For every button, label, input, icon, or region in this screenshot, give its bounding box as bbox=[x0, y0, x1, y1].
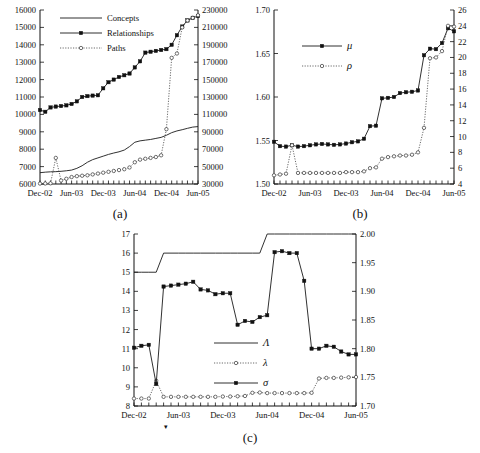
svg-text:1.65: 1.65 bbox=[255, 49, 270, 59]
svg-text:Jun-05: Jun-05 bbox=[186, 188, 209, 198]
svg-text:9: 9 bbox=[126, 382, 130, 392]
svg-text:Jun-03: Jun-03 bbox=[298, 188, 321, 198]
svg-text:130000: 130000 bbox=[202, 92, 228, 102]
svg-text:10000: 10000 bbox=[15, 109, 36, 119]
svg-text:8: 8 bbox=[458, 147, 462, 157]
svg-text:18: 18 bbox=[458, 68, 467, 78]
svg-text:14000: 14000 bbox=[15, 40, 36, 50]
svg-text:Relationships: Relationships bbox=[107, 28, 154, 38]
svg-text:7000: 7000 bbox=[19, 162, 36, 172]
svg-text:170000: 170000 bbox=[202, 57, 228, 67]
svg-text:11000: 11000 bbox=[15, 92, 36, 102]
svg-text:Dec-02: Dec-02 bbox=[261, 188, 286, 198]
svg-text:13: 13 bbox=[121, 305, 130, 315]
svg-text:Jun-04: Jun-04 bbox=[255, 410, 279, 420]
svg-text:16: 16 bbox=[121, 248, 130, 258]
svg-text:Λ: Λ bbox=[262, 337, 270, 348]
svg-text:15000: 15000 bbox=[15, 22, 36, 32]
svg-text:150000: 150000 bbox=[202, 75, 228, 85]
svg-text:22: 22 bbox=[458, 37, 467, 47]
svg-text:26: 26 bbox=[458, 5, 467, 15]
svg-text:Concepts: Concepts bbox=[107, 13, 140, 23]
svg-text:12000: 12000 bbox=[15, 75, 36, 85]
panel-a-plot: 6000700080009000100001100012000130001400… bbox=[0, 0, 240, 210]
svg-text:12: 12 bbox=[458, 116, 467, 126]
svg-text:Dec-03: Dec-03 bbox=[91, 188, 116, 198]
svg-text:1.85: 1.85 bbox=[360, 315, 375, 325]
svg-text:Jun-03: Jun-03 bbox=[167, 410, 190, 420]
figure-three-panel-chart: 6000700080009000100001100012000130001400… bbox=[0, 0, 480, 453]
svg-text:Jun-05: Jun-05 bbox=[344, 410, 367, 420]
svg-text:10: 10 bbox=[121, 363, 130, 373]
svg-text:6: 6 bbox=[458, 163, 462, 173]
svg-text:σ: σ bbox=[263, 377, 269, 388]
svg-text:20: 20 bbox=[458, 52, 467, 62]
svg-text:1.55: 1.55 bbox=[255, 136, 270, 146]
svg-text:Dec-04: Dec-04 bbox=[299, 410, 325, 420]
svg-text:1.95: 1.95 bbox=[360, 258, 375, 268]
panel-b: 1.501.551.601.651.7046810121416182022242… bbox=[240, 0, 480, 228]
panel-b-plot: 1.501.551.601.651.7046810121416182022242… bbox=[240, 0, 480, 210]
panel-c-caption: (c) bbox=[104, 430, 396, 446]
panel-b-caption: (b) bbox=[240, 206, 480, 222]
svg-text:Jun-05: Jun-05 bbox=[442, 188, 465, 198]
svg-text:1.80: 1.80 bbox=[360, 344, 375, 354]
svg-text:17: 17 bbox=[121, 229, 130, 239]
svg-text:μ: μ bbox=[346, 40, 352, 51]
svg-text:Dec-02: Dec-02 bbox=[27, 188, 52, 198]
svg-text:190000: 190000 bbox=[202, 40, 228, 50]
svg-text:24: 24 bbox=[458, 21, 467, 31]
svg-text:Jun-03: Jun-03 bbox=[60, 188, 83, 198]
svg-text:1.60: 1.60 bbox=[255, 92, 270, 102]
svg-text:1.75: 1.75 bbox=[360, 372, 375, 382]
svg-text:Dec-04: Dec-04 bbox=[405, 188, 431, 198]
svg-text:15: 15 bbox=[121, 267, 130, 277]
svg-text:Dec-03: Dec-03 bbox=[333, 188, 358, 198]
svg-text:210000: 210000 bbox=[202, 22, 228, 32]
svg-text:11: 11 bbox=[122, 344, 130, 354]
svg-text:14: 14 bbox=[458, 100, 467, 110]
svg-text:1.90: 1.90 bbox=[360, 286, 375, 296]
svg-text:Jun-04: Jun-04 bbox=[370, 188, 394, 198]
svg-text:16: 16 bbox=[458, 84, 467, 94]
svg-text:Dec-02: Dec-02 bbox=[121, 410, 146, 420]
svg-text:λ: λ bbox=[262, 357, 268, 368]
svg-text:230000: 230000 bbox=[202, 5, 228, 15]
svg-text:Dec-03: Dec-03 bbox=[210, 410, 235, 420]
svg-text:Paths: Paths bbox=[107, 43, 126, 53]
svg-text:50000: 50000 bbox=[202, 162, 223, 172]
panel-c-plot: 8910111213141516171.701.751.801.851.901.… bbox=[104, 224, 396, 432]
panel-c: 8910111213141516171.701.751.801.851.901.… bbox=[104, 224, 396, 453]
svg-text:110000: 110000 bbox=[202, 109, 227, 119]
svg-text:14: 14 bbox=[121, 286, 130, 296]
svg-text:1.70: 1.70 bbox=[255, 5, 270, 15]
svg-text:16000: 16000 bbox=[15, 5, 36, 15]
svg-text:12: 12 bbox=[121, 325, 130, 335]
svg-text:10: 10 bbox=[458, 132, 467, 142]
svg-text:13000: 13000 bbox=[15, 57, 36, 67]
svg-text:Dec-04: Dec-04 bbox=[154, 188, 180, 198]
panel-a-caption: (a) bbox=[0, 206, 240, 222]
panel-a: 6000700080009000100001100012000130001400… bbox=[0, 0, 240, 228]
svg-text:9000: 9000 bbox=[19, 127, 36, 137]
svg-text:70000: 70000 bbox=[202, 144, 223, 154]
svg-text:Jun-04: Jun-04 bbox=[123, 188, 147, 198]
svg-text:ρ: ρ bbox=[346, 60, 352, 71]
svg-text:2.00: 2.00 bbox=[360, 229, 375, 239]
svg-text:90000: 90000 bbox=[202, 127, 223, 137]
svg-text:8000: 8000 bbox=[19, 144, 36, 154]
